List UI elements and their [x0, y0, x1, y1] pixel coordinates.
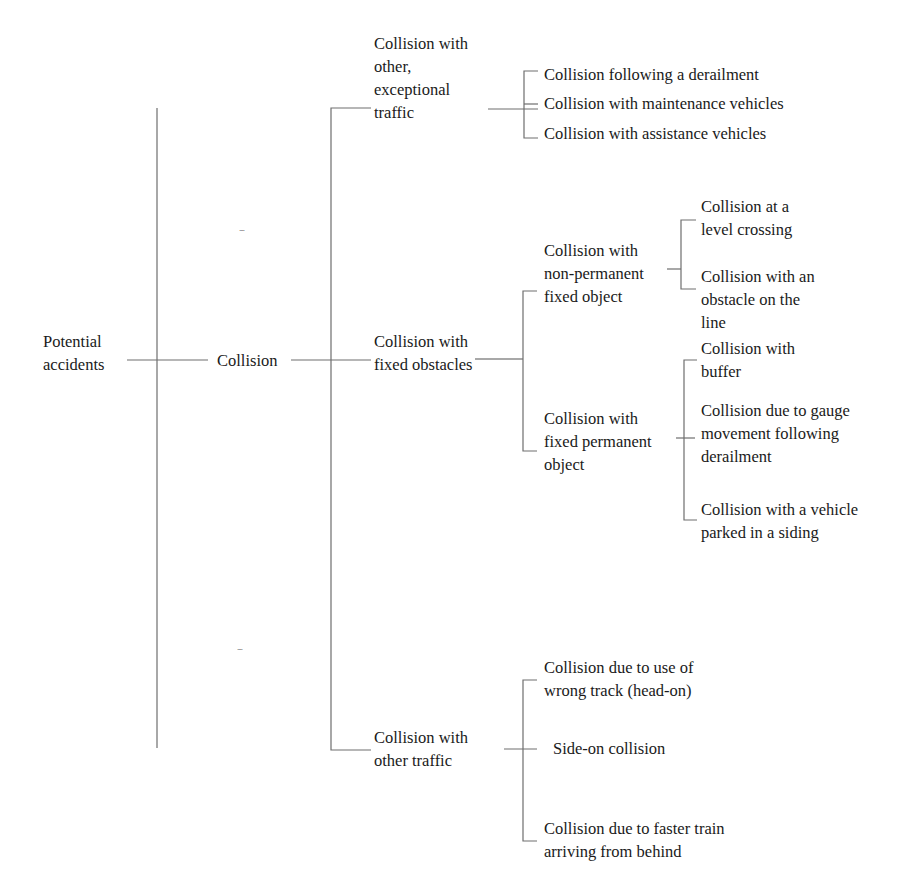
fixed-obstacles-node: Collision with fixed obstacles — [374, 330, 473, 376]
leaf-faster-train: Collision due to faster train arriving f… — [544, 817, 725, 863]
leaf-level-crossing: Collision at a level crossing — [701, 195, 792, 241]
leaf-side-on: Side-on collision — [553, 737, 665, 760]
leaf-assistance-vehicles: Collision with assistance vehicles — [544, 122, 766, 145]
leaf-parked-vehicle: Collision with a vehicle parked in a sid… — [701, 498, 858, 544]
other-traffic-node: Collision with other traffic — [374, 726, 468, 772]
sibling-placeholder-top: .... — [239, 223, 244, 233]
leaf-derailment: Collision following a derailment — [544, 63, 759, 86]
sibling-placeholder-bottom: .... — [237, 642, 242, 652]
leaf-obstacle-on-line: Collision with an obstacle on the line — [701, 265, 815, 334]
root-node: Potential accidents — [43, 330, 123, 376]
exceptional-traffic-node: Collision with other, exceptional traffi… — [374, 32, 468, 124]
fixed-permanent-node: Collision with fixed permanent object — [544, 407, 652, 476]
leaf-maintenance-vehicles: Collision with maintenance vehicles — [544, 92, 784, 115]
leaf-wrong-track: Collision due to use of wrong track (hea… — [544, 656, 693, 702]
leaf-gauge-movement: Collision due to gauge movement followin… — [701, 399, 850, 468]
collision-node: Collision — [217, 349, 278, 372]
non-permanent-node: Collision with non-permanent fixed objec… — [544, 239, 644, 308]
leaf-buffer: Collision with buffer — [701, 337, 795, 383]
